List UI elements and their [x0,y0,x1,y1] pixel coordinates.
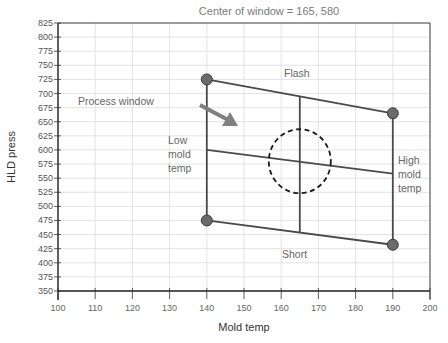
corner-marker [201,74,212,85]
label-low-mold-temp: temp [168,162,192,174]
x-axis-ticks: 100110120130140150160170180190200 [50,288,437,313]
y-axis-label: HLD press [5,131,17,183]
corner-marker [387,108,398,119]
process-window-chart: 8258007757507257006756506256005755505255… [0,0,448,343]
corner-marker [387,239,398,250]
x-tick-label: 140 [199,303,214,313]
window-lines [207,79,393,244]
label-process-window: Process window [78,95,154,107]
y-tick-label: 600 [38,145,53,155]
label-low-mold-temp: Low [168,134,188,146]
label-high-mold-temp: mold [398,168,421,180]
y-tick-label: 550 [38,173,53,183]
y-tick-label: 800 [38,32,53,42]
x-tick-label: 120 [125,303,140,313]
y-tick-label: 475 [38,215,53,225]
y-tick-label: 650 [38,117,53,127]
x-tick-label: 160 [274,303,289,313]
x-tick-label: 180 [348,303,363,313]
label-high-mold-temp: High [398,154,420,166]
y-tick-label: 375 [38,272,53,282]
arrow-icon [200,105,238,126]
corner-marker [201,215,212,226]
gridlines [58,23,430,291]
x-tick-label: 150 [236,303,251,313]
label-flash: Flash [284,67,310,79]
y-tick-label: 750 [38,60,53,70]
y-tick-label: 400 [38,258,53,268]
y-tick-label: 700 [38,89,53,99]
y-tick-label: 775 [38,46,53,56]
y-tick-label: 575 [38,159,53,169]
y-tick-label: 425 [38,244,53,254]
y-tick-label: 825 [38,18,53,28]
x-tick-label: 170 [311,303,326,313]
x-tick-label: 200 [422,303,437,313]
x-tick-label: 190 [385,303,400,313]
label-high-mold-temp: temp [398,182,422,194]
x-tick-label: 100 [50,303,65,313]
y-tick-label: 500 [38,201,53,211]
label-short: Short [282,248,307,260]
label-low-mold-temp: mold [168,148,191,160]
y-tick-label: 675 [38,103,53,113]
x-axis-label: Mold temp [218,321,269,333]
y-tick-label: 525 [38,187,53,197]
x-tick-label: 130 [162,303,177,313]
x-tick-label: 110 [88,303,102,313]
y-tick-label: 725 [38,74,53,84]
y-tick-label: 625 [38,131,53,141]
annotations: FlashShortProcess windowLowmoldtempHighm… [78,67,422,260]
y-tick-label: 350 [38,286,53,296]
y-tick-label: 450 [38,230,53,240]
